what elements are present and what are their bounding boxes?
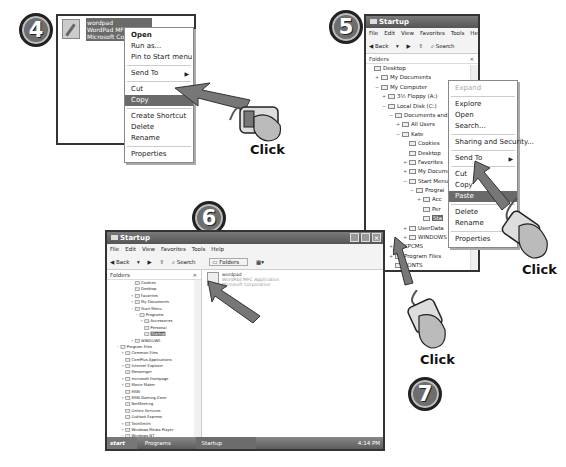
start-button[interactable]: start <box>107 437 137 449</box>
step6-explorer-window: Startup × FileEditViewFavoritesToolsHelp… <box>105 230 385 451</box>
tree-item-label: Movie Maker <box>131 383 155 387</box>
folder-icon <box>409 160 416 165</box>
close-pane-icon[interactable]: × <box>469 54 474 64</box>
menubar-edit[interactable]: Edit <box>125 246 136 252</box>
menu-item-search[interactable]: Search... <box>449 121 517 132</box>
menu-item-open[interactable]: Open <box>125 30 193 41</box>
tree-item-label: UserData <box>418 225 444 231</box>
tree-item-label: My Documents <box>141 300 169 304</box>
folder-icon <box>144 326 149 329</box>
window-titlebar[interactable]: Startup <box>366 16 478 28</box>
window-title: Startup <box>379 18 409 26</box>
folder-icon <box>409 141 416 146</box>
tree-item-label: Sta <box>432 215 443 221</box>
system-clock: 4:14 PM <box>358 437 380 449</box>
taskbar-item-programs[interactable]: Programs <box>139 437 194 449</box>
window-title: Startup <box>120 234 150 242</box>
tree-item-label: MSN <box>131 389 139 393</box>
tree-item-label: Prograi <box>425 187 444 193</box>
menu-item-expand[interactable]: Expand <box>449 83 517 94</box>
minimize-button[interactable] <box>350 233 359 242</box>
menu-bar: FileEditViewFavoritesToolsHelp <box>107 244 383 254</box>
search-button[interactable]: ⌕ Search <box>431 43 461 49</box>
folder-icon <box>374 66 381 71</box>
menubar-tools[interactable]: Tools <box>192 246 206 252</box>
folder-icon <box>402 122 409 127</box>
pointer-arrow-icon <box>205 278 265 326</box>
menubar-file[interactable]: File <box>110 246 119 252</box>
menu-item-pin-to-start-menu[interactable]: Pin to Start menu <box>125 52 193 63</box>
step-badge-7: 7 <box>408 377 442 411</box>
menubar-view[interactable]: View <box>142 246 155 252</box>
click-label: Click <box>522 262 557 277</box>
wordpad-file-icon[interactable] <box>62 19 80 39</box>
close-pane-icon[interactable]: × <box>192 270 197 280</box>
taskbar-item-startup[interactable]: Startup <box>196 437 256 449</box>
menubar-edit[interactable]: Edit <box>384 30 395 36</box>
folder-icon <box>135 307 140 310</box>
menu-item-open[interactable]: Open <box>449 110 517 121</box>
forward-button[interactable]: ▶ <box>148 259 152 265</box>
back-button[interactable]: ◀ Back ▾ <box>110 259 140 265</box>
step-badge-4: 4 <box>19 13 53 47</box>
search-button[interactable]: ⌕ Search <box>172 259 202 265</box>
tree-item-label: Startup <box>151 332 166 336</box>
menu-item-explore[interactable]: Explore <box>449 99 517 110</box>
back-label: Back <box>375 43 388 49</box>
folder-icon <box>125 358 130 361</box>
tree-item-label: MSN Gaming Zone <box>131 396 166 400</box>
maximize-button[interactable] <box>361 233 370 242</box>
folder-icon <box>409 169 416 174</box>
folder-icon <box>135 301 140 304</box>
folder-icon <box>370 19 377 24</box>
views-button[interactable]: ▦▾ <box>256 259 264 265</box>
menubar-favorites[interactable]: Favorites <box>420 30 445 36</box>
tree-item-label: TechSmith <box>131 421 150 425</box>
forward-button[interactable]: ▶ <box>407 43 411 49</box>
folder-icon <box>125 415 130 418</box>
menubar-view[interactable]: View <box>401 30 414 36</box>
folder-icon <box>125 403 130 406</box>
menu-item-properties[interactable]: Properties <box>125 149 193 160</box>
menubar-help[interactable]: Help <box>211 246 224 252</box>
click-label: Click <box>420 352 455 367</box>
tree-item-label: Start Menu <box>418 178 448 184</box>
folder-icon <box>135 288 140 291</box>
menubar-help[interactable]: Help <box>470 30 480 36</box>
window-titlebar[interactable]: Startup × <box>107 232 383 244</box>
close-button[interactable]: × <box>372 233 381 242</box>
tree-item-label: Cookies <box>141 281 156 285</box>
menu-item-run-as[interactable]: Run as... <box>125 41 193 52</box>
folder-icon <box>423 216 430 221</box>
tree-item-label: Desktop <box>141 287 156 291</box>
tree-item-label: Kate <box>411 131 423 137</box>
scrollbar[interactable] <box>194 280 201 439</box>
tree-item-label: Favorites <box>418 159 443 165</box>
folder-icon <box>409 226 416 231</box>
back-button[interactable]: ◀ Back ▾ <box>369 43 399 49</box>
click-label: Click <box>250 142 285 157</box>
tree-item-label: Outlook Express <box>131 415 161 419</box>
folders-pane: Folders × CookiesDesktop+Favorites+My Do… <box>107 270 202 439</box>
up-folder-button[interactable]: ⇧ <box>419 43 424 49</box>
mouse-click-icon <box>228 95 288 145</box>
menu-item-rename[interactable]: Rename <box>125 133 193 144</box>
tree-item[interactable]: Desktop <box>368 64 478 73</box>
search-label: Search <box>436 43 455 49</box>
folder-icon <box>144 320 149 323</box>
back-label: Back <box>116 259 129 265</box>
menu-item-sharing-and-security[interactable]: Sharing and Security... <box>449 137 517 148</box>
menubar-file[interactable]: File <box>369 30 378 36</box>
tree-item-label: Cookies <box>418 140 440 146</box>
up-folder-button[interactable]: ⇧ <box>160 259 165 265</box>
menubar-favorites[interactable]: Favorites <box>161 246 186 252</box>
tree-item-label: Programs <box>146 313 164 317</box>
menubar-tools[interactable]: Tools <box>451 30 465 36</box>
tree-item-label: Windows Media Player <box>131 428 173 432</box>
tree-item-label: Local Disk (C:) <box>397 103 437 109</box>
folders-button[interactable]: ▭ Folders <box>209 258 248 266</box>
tree-item-label: Start Menu <box>141 306 162 310</box>
folder-icon <box>388 104 395 109</box>
folder-icon <box>409 179 416 184</box>
tree-item-label: Online Services <box>131 408 160 412</box>
